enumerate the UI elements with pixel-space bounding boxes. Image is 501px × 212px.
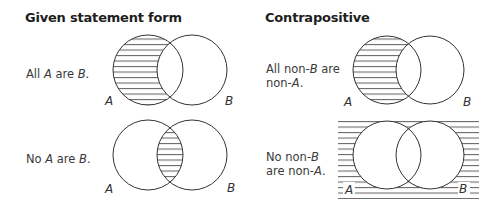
- venn-no-non-b-are-non-a: A B: [338, 118, 479, 199]
- circle-a: [353, 121, 421, 189]
- label-b: B: [459, 182, 467, 196]
- venn-no-a-are-b: A B: [100, 115, 235, 196]
- shaded-region-intersection: [100, 115, 220, 195]
- label-a: A: [344, 183, 353, 197]
- label-a: A: [104, 94, 113, 108]
- shaded-region-a-only: [340, 30, 440, 110]
- venn-diagrams: A B A B A B A B: [0, 0, 501, 212]
- venn-all-non-b-are-non-a: A B: [340, 30, 471, 110]
- label-a: A: [104, 182, 113, 196]
- label-b: B: [463, 95, 471, 109]
- label-b: B: [225, 94, 233, 108]
- label-a: A: [343, 95, 352, 109]
- label-b: B: [227, 181, 235, 195]
- shaded-region-a-only: [100, 30, 200, 110]
- venn-all-a-are-b: A B: [100, 30, 233, 110]
